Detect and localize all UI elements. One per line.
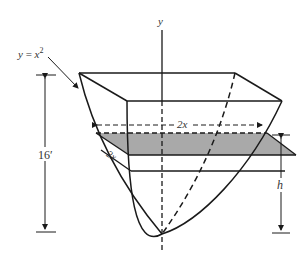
slice-height-label: h — [277, 178, 283, 192]
front-parabola — [127, 101, 162, 235]
front-parabola-curve — [127, 101, 282, 237]
y-axis-label: y — [157, 15, 163, 27]
curve-exponent: 2 — [40, 46, 44, 55]
total-height-label: 16′ — [38, 148, 53, 162]
shaded-slice — [96, 133, 296, 155]
right-top-edge — [235, 73, 282, 101]
width-back-label: 2x — [177, 118, 188, 130]
curve-label: y = x2 — [17, 46, 44, 60]
tank-diagram: 2x 2x 16′ h y y = x2 — [0, 0, 305, 255]
curve-pointer — [48, 57, 78, 88]
